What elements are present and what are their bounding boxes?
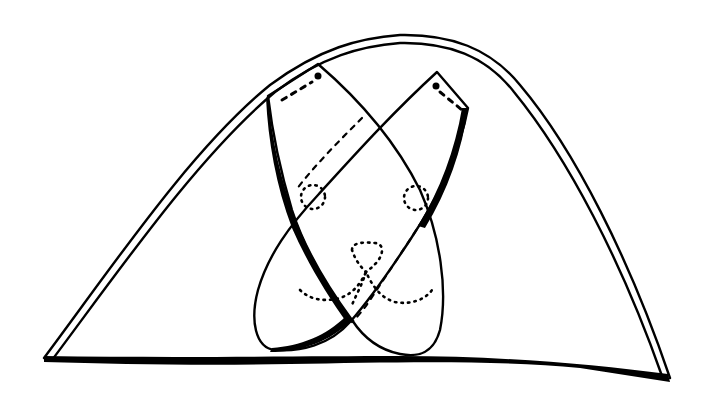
dog-fold-diagram xyxy=(0,0,716,409)
diagram-canvas: folded paper dog face xyxy=(0,0,716,409)
left-eye-dotted xyxy=(301,185,325,209)
fold-line-dashed xyxy=(296,118,362,190)
nose-dotted xyxy=(352,243,382,272)
left-ear-flap xyxy=(266,64,443,355)
outer-triangle xyxy=(44,35,670,382)
